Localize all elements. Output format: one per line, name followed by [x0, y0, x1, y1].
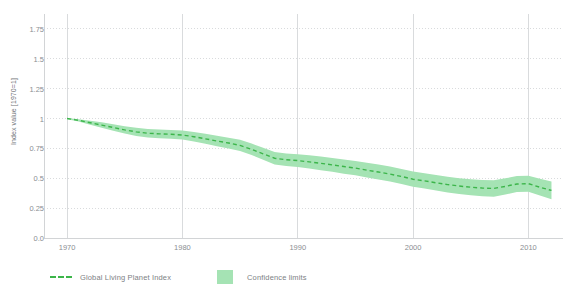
x-axis-tick-label: 1970 [59, 243, 76, 252]
legend-item-confidence-limits[interactable]: Confidence limits [217, 270, 307, 284]
y-axis-tick-label: 1.25 [6, 84, 44, 93]
x-axis-tick-label: 1980 [174, 243, 191, 252]
chart-legend: Global Living Planet Index Confidence li… [44, 270, 307, 284]
y-axis: Index value [1970=1] 0.00.250.50.7511.25… [0, 0, 44, 295]
legend-item-global-living-planet-index[interactable]: Global Living Planet Index [50, 273, 171, 282]
x-axis-tick-label: 2000 [405, 243, 422, 252]
dashed-line-icon [50, 276, 72, 278]
y-axis-tick-label: 1.75 [6, 24, 44, 33]
y-axis-tick-label: 0.5 [6, 174, 44, 183]
y-axis-tick-label: 1 [6, 114, 44, 123]
legend-label: Confidence limits [247, 273, 307, 282]
y-axis-tick-label: 1.5 [6, 54, 44, 63]
y-axis-tick-label: 0.25 [6, 204, 44, 213]
confidence-band [67, 118, 551, 199]
chart-container: Index value [1970=1] 0.00.250.50.7511.25… [0, 0, 577, 295]
y-axis-tick-label: 0.0 [6, 234, 44, 243]
x-axis-tick-label: 1990 [289, 243, 306, 252]
x-axis-tick-label: 2010 [520, 243, 537, 252]
filled-square-icon [217, 270, 233, 284]
legend-label: Global Living Planet Index [80, 273, 171, 282]
y-axis-tick-label: 0.75 [6, 144, 44, 153]
